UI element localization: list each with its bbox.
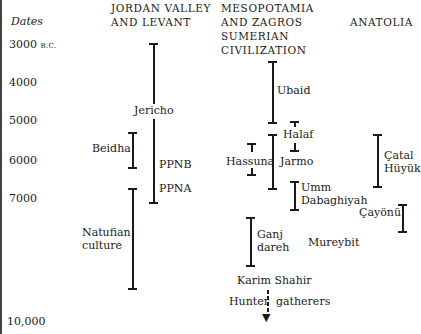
label-cayonu: Çayönü bbox=[359, 206, 401, 219]
label-jericho: Jericho bbox=[134, 104, 174, 117]
tick-5000: 5000 bbox=[9, 114, 37, 127]
umm-bar bbox=[294, 181, 296, 210]
column-header-mesopotamia: MESOPOTAMIA AND ZAGROS SUMERIAN CIVILIZA… bbox=[221, 1, 314, 57]
header-line: AND LEVANT bbox=[111, 15, 211, 29]
catal-bar bbox=[377, 134, 379, 187]
jericho-cap-bottom bbox=[149, 202, 158, 204]
hassuna-bar-top bbox=[251, 143, 253, 152]
beidha-bar bbox=[132, 132, 134, 168]
ubaid-cap-bottom bbox=[268, 122, 277, 124]
umm-cap-bottom bbox=[290, 209, 299, 211]
axis-label: Dates bbox=[11, 15, 43, 28]
tick-4000: 4000 bbox=[9, 76, 37, 89]
label-line: culture bbox=[82, 239, 131, 252]
header-line: CIVILIZATION bbox=[221, 43, 314, 57]
label-line: Hüyük bbox=[384, 162, 421, 175]
tick-7000: 7000 bbox=[9, 192, 37, 205]
hassuna-cap-bottom bbox=[247, 174, 256, 176]
ubaid-bar bbox=[272, 61, 274, 123]
label-ppnb: PPNB bbox=[159, 158, 192, 171]
halaf-bar-bottom bbox=[294, 143, 296, 150]
natufian-cap-bottom bbox=[128, 288, 137, 290]
ganj-bar bbox=[250, 217, 252, 266]
catal-cap-bottom bbox=[373, 186, 382, 188]
beidha-cap-bottom bbox=[128, 167, 137, 169]
natufian-bar bbox=[132, 188, 134, 289]
label-ganj-dareh: Ganj dareh bbox=[257, 228, 289, 254]
label-umm-dabaghiyah: Umm Dabaghiyah bbox=[301, 181, 367, 207]
label-line: Natufian bbox=[82, 226, 131, 239]
cayonu-bar bbox=[402, 204, 404, 232]
label-jarmo: Jarmo bbox=[280, 155, 313, 168]
label-hunter: Hunter bbox=[229, 295, 269, 308]
column-header-anatolia: ANATOLIA bbox=[350, 15, 413, 29]
label-hassuna: Hassuna bbox=[226, 155, 274, 168]
halaf-bar-top bbox=[294, 121, 296, 127]
header-line: SUMERIAN bbox=[221, 29, 314, 43]
jericho-bar-lower bbox=[153, 119, 155, 202]
label-gatherers: gatherers bbox=[276, 295, 330, 308]
arrow-down-icon: ▼ bbox=[262, 312, 270, 323]
label-line: Dabaghiyah bbox=[301, 194, 367, 207]
label-natufian: Natufian culture bbox=[82, 226, 131, 252]
label-line: Çatal bbox=[384, 149, 421, 162]
label-ubaid: Ubaid bbox=[277, 84, 310, 97]
label-mureybit: Mureybit bbox=[308, 236, 359, 249]
label-line: Umm bbox=[301, 181, 367, 194]
left-border bbox=[0, 0, 2, 334]
header-line: JORDAN VALLEY bbox=[111, 1, 211, 15]
tick-3000: 3000 B.C. bbox=[9, 38, 56, 53]
label-beidha: Beidha bbox=[92, 142, 131, 155]
jarmo-cap-bottom bbox=[268, 188, 277, 190]
cayonu-cap-bottom bbox=[398, 231, 407, 233]
tick-10000: 10,000 bbox=[7, 315, 46, 328]
tick-6000: 6000 bbox=[9, 154, 37, 167]
header-line: AND ZAGROS bbox=[221, 15, 314, 29]
ganj-cap-bottom bbox=[246, 265, 255, 267]
jericho-bar-upper bbox=[153, 43, 155, 104]
header-line: MESOPOTAMIA bbox=[221, 1, 314, 15]
label-line: dareh bbox=[257, 241, 289, 254]
label-ppna: PPNA bbox=[159, 182, 191, 195]
halaf-cap-bottom bbox=[290, 150, 299, 152]
label-halaf: Halaf bbox=[283, 128, 313, 141]
label-catal-huyuk: Çatal Hüyük bbox=[384, 149, 421, 175]
column-header-levant: JORDAN VALLEY AND LEVANT bbox=[111, 1, 211, 29]
label-line: Ganj bbox=[257, 228, 289, 241]
label-karim-shahir: Karim Shahir bbox=[237, 274, 312, 287]
